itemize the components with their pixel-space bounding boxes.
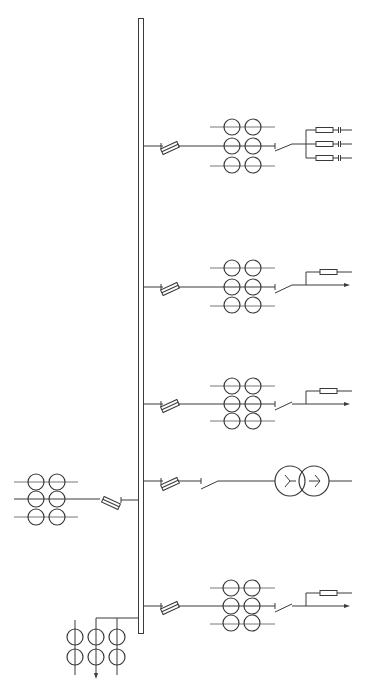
switch-icon	[275, 144, 292, 151]
fuse-icon	[161, 141, 180, 154]
fuse-icon	[161, 601, 180, 614]
resistor-icon	[320, 270, 337, 275]
switch-icon	[275, 285, 292, 293]
arrow-icon	[344, 604, 350, 608]
busbar	[139, 19, 144, 634]
feeder-1	[144, 119, 352, 173]
fuse-icon	[161, 282, 180, 295]
transformer-icon	[275, 466, 329, 496]
resistor-capacitor-icon	[306, 127, 352, 161]
switch-icon	[275, 402, 292, 410]
arrow-icon	[344, 283, 350, 287]
arrow-icon	[344, 402, 350, 406]
single-line-diagram	[0, 0, 366, 687]
switch-icon	[201, 481, 218, 489]
feeder-4	[144, 466, 352, 496]
incomer	[14, 474, 138, 525]
resistor-icon	[320, 591, 337, 596]
fuse-icon	[102, 496, 121, 509]
feeder-5	[144, 580, 352, 631]
fuse-icon	[161, 399, 180, 412]
switch-icon	[275, 604, 292, 612]
resistor-icon	[320, 389, 337, 394]
fuse-icon	[161, 477, 180, 490]
feeder-3	[144, 378, 352, 429]
arrow-icon	[94, 673, 98, 679]
bottom-tap	[67, 618, 138, 679]
feeder-2	[144, 260, 352, 313]
